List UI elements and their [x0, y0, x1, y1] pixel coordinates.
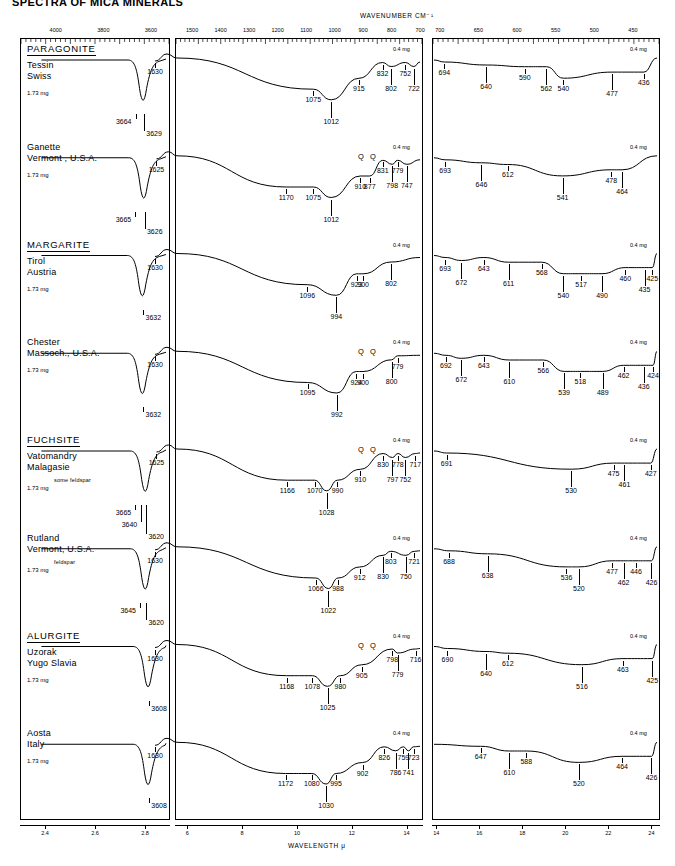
- peak-label: 588: [520, 758, 532, 765]
- peak-label: 900: [357, 379, 369, 386]
- peak-label: 1630: [147, 264, 163, 271]
- peak-leader-line: [414, 69, 415, 85]
- peak-label: 980: [334, 683, 346, 690]
- peak-label: 797: [387, 476, 399, 483]
- peak-label: 610: [503, 769, 515, 776]
- mineral-group-heading: PARAGONITE: [27, 43, 96, 56]
- peak-leader-line: [582, 667, 583, 683]
- peak-label: 1630: [147, 752, 163, 759]
- peak-label: 3665: [116, 216, 132, 223]
- wavelength-tick-label: 18: [519, 830, 525, 836]
- peak-leader-line: [579, 764, 580, 780]
- mineral-group-heading: FUCHSITE: [27, 434, 80, 447]
- sample-mass: 1.73 mg: [27, 172, 49, 178]
- peak-label: 693: [439, 167, 451, 174]
- peak-leader-line: [486, 67, 487, 83]
- peak-label: 752: [399, 476, 411, 483]
- peak-label: 750: [400, 573, 412, 580]
- peak-label: 778: [392, 461, 404, 468]
- peak-leader-line: [149, 798, 150, 803]
- peak-label: 638: [482, 572, 494, 579]
- peak-label: 905: [356, 672, 368, 679]
- peak-label: 691: [441, 460, 453, 467]
- peak-leader-line: [391, 69, 392, 85]
- peak-label: 1030: [318, 802, 334, 809]
- peak-leader-line: [407, 166, 408, 182]
- locality-line-2: Vermont , U.S.A.: [27, 153, 97, 164]
- locality-line-2: Yugo Slavia: [27, 658, 77, 669]
- peak-leader-line: [143, 407, 144, 412]
- peak-label: 1012: [323, 118, 339, 125]
- peak-label: 826: [378, 754, 390, 761]
- peak-label: 992: [331, 411, 343, 418]
- peak-leader-line: [383, 557, 384, 573]
- peak-label: 462: [618, 579, 630, 586]
- sample-mass: 1.73 mg: [27, 485, 49, 491]
- peak-label: 688: [443, 558, 455, 565]
- quartz-marker: Q: [370, 641, 376, 650]
- peak-leader-line: [509, 362, 510, 378]
- peak-label: 3629: [146, 130, 162, 137]
- wavelength-tick-label: 2.6: [91, 830, 99, 836]
- peak-label: 640: [480, 83, 492, 90]
- quartz-marker: Q: [358, 445, 364, 454]
- peak-label: 425: [646, 275, 658, 282]
- peak-leader-line: [461, 360, 462, 376]
- wavelength-tick-label: 2.8: [141, 830, 149, 836]
- peak-leader-line: [563, 178, 564, 194]
- peak-leader-line: [652, 661, 653, 677]
- wavenumber-tick-label: 650: [474, 27, 483, 33]
- peak-label: 721: [408, 558, 420, 565]
- peak-label: 915: [353, 85, 365, 92]
- scale-tag: 0.4 mg: [630, 633, 647, 639]
- peak-label: 3632: [146, 314, 162, 321]
- peak-label: 779: [392, 167, 404, 174]
- peak-label: 1630: [147, 361, 163, 368]
- peak-label: 647: [475, 753, 487, 760]
- peak-leader-line: [486, 654, 487, 670]
- figure-title: SPECTRA OF MICA MINERALS: [12, 0, 183, 8]
- peak-label: 694: [439, 69, 451, 76]
- peak-label: 802: [385, 280, 397, 287]
- peak-label: 610: [503, 378, 515, 385]
- scale-tag: 0.4 mg: [393, 339, 410, 345]
- peak-label: 3620: [148, 619, 164, 626]
- peak-label: 540: [558, 85, 570, 92]
- peak-label: 426: [646, 774, 658, 781]
- sample-locality: GanetteVermont , U.S.A.: [27, 142, 97, 164]
- peak-label: 912: [354, 574, 366, 581]
- peak-leader-line: [328, 591, 329, 607]
- scale-tag: 0.4 mg: [393, 437, 410, 443]
- peak-leader-line: [622, 172, 623, 188]
- peak-label: 611: [503, 280, 514, 287]
- mineral-group-heading: MARGARITE: [27, 239, 90, 252]
- sample-mass: 1.73 mg: [27, 286, 49, 292]
- ruler-ticks: [433, 39, 659, 45]
- peak-leader-line: [326, 786, 327, 802]
- scale-tag: 0.4 mg: [393, 633, 410, 639]
- sample-mass: 1.73 mg: [27, 758, 49, 764]
- peak-label: 612: [502, 171, 514, 178]
- peak-label: 424: [647, 372, 659, 379]
- wavelength-tick-label: 10: [294, 830, 300, 836]
- peak-label: 3640: [122, 521, 138, 528]
- peak-label: 516: [576, 683, 588, 690]
- peak-label: 426: [646, 579, 658, 586]
- peak-label: 1630: [147, 557, 163, 564]
- peak-leader-line: [328, 688, 329, 704]
- peak-label: 566: [537, 367, 549, 374]
- peak-label: 530: [565, 487, 577, 494]
- peak-leader-line: [331, 102, 332, 118]
- peak-label: 1012: [323, 216, 339, 223]
- quartz-marker: Q: [358, 641, 364, 650]
- peak-label: 741: [403, 769, 415, 776]
- peak-leader-line: [406, 557, 407, 573]
- peak-label: 643: [478, 265, 490, 272]
- peak-label: 477: [606, 568, 618, 575]
- peak-label: 752: [399, 70, 411, 77]
- peak-leader-line: [405, 460, 406, 476]
- peak-label: 568: [536, 269, 548, 276]
- peak-label: 1625: [149, 459, 165, 466]
- peak-label: 3665: [116, 509, 132, 516]
- sample-locality: AostaItaly: [27, 728, 51, 750]
